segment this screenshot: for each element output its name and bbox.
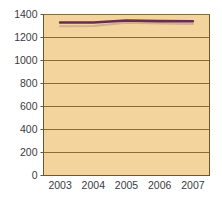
y-tick-label: 1400 (14, 8, 38, 20)
x-tick-label: 2005 (115, 179, 139, 191)
y-tick-label: 800 (20, 77, 38, 89)
y-tick-label: 1000 (14, 54, 38, 66)
y-tick-label: 0 (32, 169, 38, 181)
y-tick-label: 400 (20, 123, 38, 135)
line-chart-figure: 0200400600800100012001400 20032004200520… (0, 0, 222, 204)
y-tick-label: 1200 (14, 31, 38, 43)
x-tick-label: 2007 (181, 179, 205, 191)
x-tick-label: 2006 (148, 179, 172, 191)
y-tick-label: 600 (20, 100, 38, 112)
plot-area-background (44, 15, 210, 176)
y-tick-label: 200 (20, 146, 38, 158)
x-tick-label: 2003 (48, 179, 72, 191)
x-tick-label: 2004 (82, 179, 106, 191)
chart-canvas: 0200400600800100012001400 20032004200520… (0, 0, 222, 204)
